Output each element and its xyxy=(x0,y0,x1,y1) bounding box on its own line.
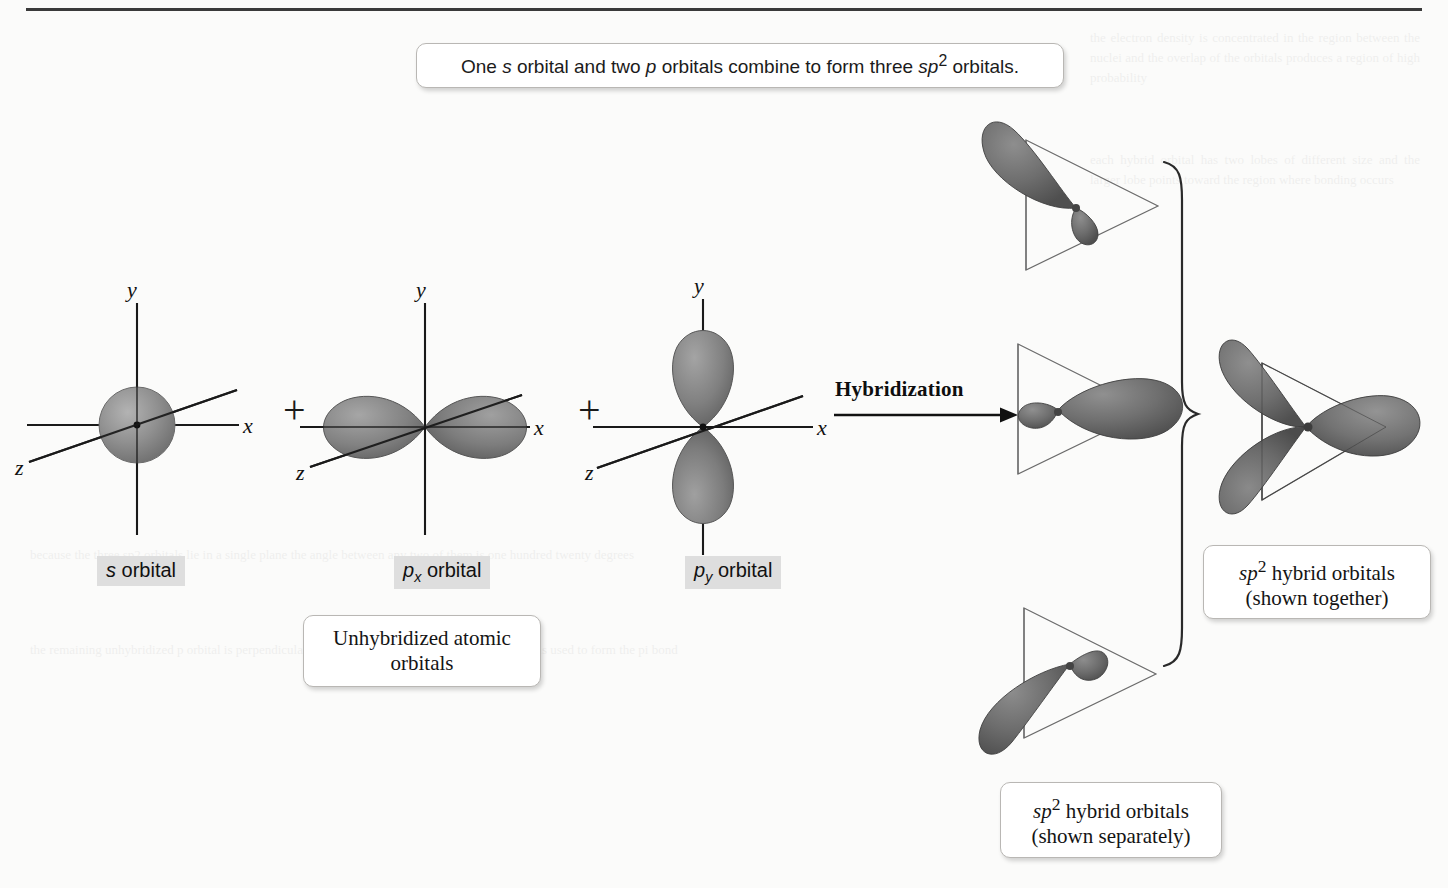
hybrid-lobe-upper-left xyxy=(1219,340,1306,427)
hybrid-large-lobe xyxy=(982,122,1076,208)
hybrid-orbital-bottom-figure xyxy=(958,590,1188,779)
hybrid-lobe-lower-left xyxy=(1219,427,1306,514)
x-axis-label: x xyxy=(534,415,544,441)
hybrid-orbitals-combined-figure xyxy=(1196,305,1436,524)
s-orbital-figure: x y z xyxy=(15,255,285,539)
unhybridized-line-1: Unhybridized atomic xyxy=(333,626,511,651)
hybrid-small-lobe xyxy=(1072,208,1098,245)
ghost-block: the electron density is concentrated in … xyxy=(1090,28,1420,88)
s-orbital-label: s orbital xyxy=(97,556,185,586)
hybrid-orbital-top-svg xyxy=(958,108,1188,293)
hybrid-orbital-bottom-svg xyxy=(958,590,1188,775)
top-caption-callout: One s orbital and two p orbitals combine… xyxy=(416,43,1064,88)
z-axis-label: z xyxy=(15,455,24,481)
unhybridized-label-text: Unhybridized atomic orbitals xyxy=(333,626,511,676)
hybrid-small-lobe xyxy=(1070,651,1108,680)
x-axis-label: x xyxy=(817,415,827,441)
plane-triangle-outline xyxy=(1026,140,1158,270)
y-axis-label: y xyxy=(416,277,426,303)
py-lobe-bottom xyxy=(673,427,734,524)
hybrid-lobe-right xyxy=(1306,396,1420,456)
px-orbital-svg xyxy=(290,255,580,535)
nucleus-dot xyxy=(700,424,707,431)
page-top-rule xyxy=(26,8,1422,11)
px-orbital-label: px orbital xyxy=(394,556,490,589)
hybrid-orbital-top-figure xyxy=(958,108,1188,297)
py-orbital-label: py orbital xyxy=(685,556,781,589)
hybrid-separate-line-2: (shown separately) xyxy=(1031,824,1190,849)
y-axis-label: y xyxy=(694,273,704,299)
py-lobe-top xyxy=(673,331,734,428)
x-axis-label: x xyxy=(243,413,253,439)
top-caption-text: One s orbital and two p orbitals combine… xyxy=(461,52,1019,78)
px-orbital-figure: x y z xyxy=(290,255,580,539)
z-axis-label: z xyxy=(585,460,594,486)
hybridization-arrow xyxy=(832,402,1022,428)
hybrid-separate-label-callout: sp2 hybrid orbitals (shown separately) xyxy=(1000,782,1222,858)
hybrid-together-label-callout: sp2 hybrid orbitals (shown together) xyxy=(1203,545,1431,619)
s-orbital-svg xyxy=(15,255,285,535)
hybrid-separate-label-text: sp2 hybrid orbitals (shown separately) xyxy=(1031,792,1190,849)
z-axis-label: z xyxy=(296,460,305,486)
y-axis-label: y xyxy=(127,277,137,303)
hybrid-orbitals-combined-svg xyxy=(1196,305,1436,520)
py-orbital-figure: x y z xyxy=(585,255,865,559)
figure-page: the electron density is concentrated in … xyxy=(0,0,1448,888)
unhybridized-label-callout: Unhybridized atomic orbitals xyxy=(303,615,541,687)
hybrid-small-lobe xyxy=(1018,403,1058,428)
hybridization-label: Hybridization xyxy=(835,377,964,402)
ghost-block: the remaining unhybridized p orbital is … xyxy=(30,640,1420,660)
unhybridized-line-2: orbitals xyxy=(333,651,511,676)
hybrid-together-line-1: sp2 hybrid orbitals xyxy=(1239,554,1395,586)
hybrid-together-label-text: sp2 hybrid orbitals (shown together) xyxy=(1239,554,1395,611)
py-orbital-svg xyxy=(585,255,865,555)
hybrid-separate-line-1: sp2 hybrid orbitals xyxy=(1031,792,1190,824)
hybrid-together-line-2: (shown together) xyxy=(1239,586,1395,611)
